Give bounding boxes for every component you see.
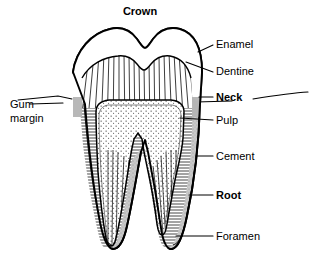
- label-foramen: Foramen: [216, 230, 260, 242]
- label-root: Root: [216, 189, 241, 201]
- label-dentine: Dentine: [216, 65, 254, 77]
- label-crown: Crown: [123, 5, 158, 17]
- label-gum-margin-line1: Gum: [10, 98, 34, 110]
- label-cement: Cement: [216, 150, 255, 162]
- tooth-anatomy-diagram: Crown Enamel Dentine Neck Pulp Cement Ro…: [0, 0, 313, 260]
- label-neck: Neck: [216, 91, 243, 103]
- label-gum-margin-line2: margin: [10, 112, 44, 124]
- label-pulp: Pulp: [216, 114, 238, 126]
- label-enamel: Enamel: [216, 38, 253, 50]
